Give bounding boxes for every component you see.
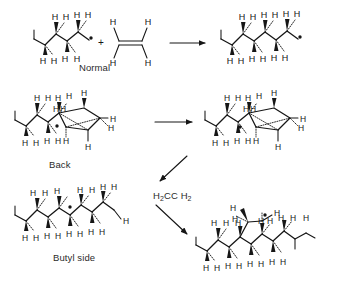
svg-text:H: H xyxy=(239,12,246,22)
svg-text:H: H xyxy=(234,136,240,146)
svg-text:H: H xyxy=(243,104,249,114)
label-normal: Normal xyxy=(79,63,110,73)
hydrogen-labels-ethylene: H H H H xyxy=(110,17,152,68)
structure-chain-extended-radical xyxy=(221,19,302,55)
svg-text:H: H xyxy=(44,231,50,241)
svg-text:H: H xyxy=(303,213,309,223)
monomer-formula-part1: H xyxy=(153,190,160,201)
svg-text:H: H xyxy=(261,10,268,20)
svg-text:H: H xyxy=(33,138,39,148)
svg-text:H: H xyxy=(22,233,28,243)
svg-text:H: H xyxy=(40,56,47,66)
svg-text:H: H xyxy=(258,216,264,226)
svg-text:H: H xyxy=(60,104,66,114)
svg-text:H: H xyxy=(145,58,152,68)
svg-text:H: H xyxy=(203,263,209,273)
svg-text:H: H xyxy=(66,229,72,239)
svg-text:H: H xyxy=(81,88,87,98)
svg-text:H: H xyxy=(123,216,129,226)
svg-text:H: H xyxy=(55,231,61,241)
svg-text:H: H xyxy=(294,9,301,19)
monomer-subscript-2: 2 xyxy=(188,195,192,202)
svg-text:H: H xyxy=(238,56,245,66)
radical-dot xyxy=(298,35,301,38)
svg-text:H: H xyxy=(33,233,39,243)
svg-text:H: H xyxy=(63,12,70,22)
svg-text:H: H xyxy=(278,213,284,223)
structure-branched-radical xyxy=(196,208,315,261)
svg-text:H: H xyxy=(275,142,281,152)
svg-text:H: H xyxy=(77,229,83,239)
svg-text:H: H xyxy=(111,182,117,192)
monomer-formula-part2: CC H xyxy=(164,190,188,201)
svg-text:H: H xyxy=(110,17,117,27)
radical-dot xyxy=(68,205,71,208)
svg-text:H: H xyxy=(42,188,48,198)
svg-text:H: H xyxy=(55,136,61,146)
svg-text:H: H xyxy=(245,136,251,146)
svg-text:H: H xyxy=(100,182,106,192)
svg-text:H: H xyxy=(62,54,69,64)
svg-text:H: H xyxy=(283,9,290,19)
svg-text:H: H xyxy=(230,203,236,213)
structure-secondary-alkyl-radical xyxy=(34,20,93,55)
svg-text:H: H xyxy=(223,218,229,228)
svg-text:H: H xyxy=(89,185,95,195)
svg-text:H: H xyxy=(267,216,273,226)
hydrogen-labels-r1-right: H H H H H H H H H H H H xyxy=(227,9,301,66)
svg-text:H: H xyxy=(51,56,58,66)
svg-text:H: H xyxy=(298,123,304,133)
svg-text:H: H xyxy=(235,93,241,103)
svg-text:H: H xyxy=(253,136,259,146)
reaction-scheme: H H H H H H H H + H H H H xyxy=(0,0,338,288)
svg-text:H: H xyxy=(54,186,60,196)
svg-text:H: H xyxy=(225,261,231,271)
svg-text:H: H xyxy=(44,136,50,146)
svg-text:H: H xyxy=(212,138,218,148)
svg-text:H: H xyxy=(247,259,253,269)
reaction-arrow-diagonal-upper xyxy=(160,156,187,181)
radical-dot xyxy=(89,36,92,39)
svg-text:H: H xyxy=(258,259,264,269)
structure-ethylene xyxy=(114,28,147,58)
svg-text:H: H xyxy=(272,10,279,20)
svg-text:H: H xyxy=(245,93,251,103)
svg-text:H: H xyxy=(223,138,229,148)
plus-sign: + xyxy=(98,37,104,48)
svg-text:H: H xyxy=(271,88,277,98)
hydrogen-labels-r3-left: H H H H H H H H H H H H H H H H xyxy=(22,182,129,243)
svg-text:H: H xyxy=(55,93,61,103)
label-butyl-side: Butyl side xyxy=(53,253,95,263)
label-monomer-formula: H2CC H2 xyxy=(153,191,192,202)
svg-text:H: H xyxy=(236,261,242,271)
svg-text:H: H xyxy=(250,12,257,22)
svg-text:H: H xyxy=(108,123,114,133)
svg-text:H: H xyxy=(53,104,59,114)
svg-text:H: H xyxy=(30,188,36,198)
svg-text:H: H xyxy=(249,54,256,64)
svg-text:H: H xyxy=(85,142,91,152)
svg-text:H: H xyxy=(99,227,105,237)
svg-text:H: H xyxy=(85,10,92,20)
svg-text:H: H xyxy=(145,17,152,27)
svg-text:H: H xyxy=(290,213,296,223)
svg-text:H: H xyxy=(224,93,230,103)
svg-text:H: H xyxy=(280,257,286,267)
svg-text:H: H xyxy=(66,91,72,101)
svg-text:H: H xyxy=(88,227,94,237)
label-back: Back xyxy=(49,160,71,170)
hydrogen-labels-r1-left: H H H H H H H H xyxy=(40,10,92,66)
svg-text:H: H xyxy=(235,218,241,228)
svg-text:H: H xyxy=(260,54,267,64)
svg-text:H: H xyxy=(269,257,275,267)
svg-text:H: H xyxy=(74,10,81,20)
radical-dot xyxy=(55,124,58,127)
svg-text:H: H xyxy=(211,218,217,228)
svg-text:H: H xyxy=(52,12,59,22)
svg-text:H: H xyxy=(22,138,28,148)
svg-text:H: H xyxy=(271,53,278,63)
radical-dot xyxy=(238,125,241,128)
svg-text:H: H xyxy=(227,56,234,66)
svg-text:H: H xyxy=(45,93,51,103)
svg-text:H: H xyxy=(282,53,289,63)
